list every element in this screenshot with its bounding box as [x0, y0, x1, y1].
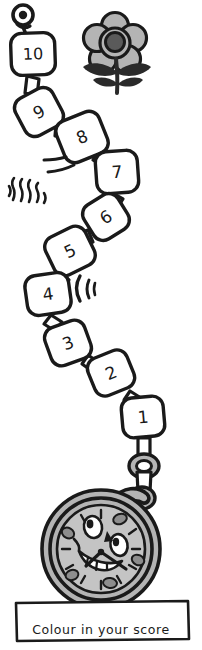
chain-step-7[interactable]: 7 [95, 150, 140, 195]
score-chain-illustration: 10987654321 [0, 0, 202, 650]
swoosh-arc-icon [77, 276, 96, 301]
caption-box [16, 601, 189, 641]
chain-step-1[interactable]: 1 [120, 395, 165, 439]
chain-step-10[interactable]: 10 [10, 32, 55, 76]
chain-step-number: 10 [22, 44, 43, 64]
chain-step-boxes[interactable]: 10987654321 [10, 32, 165, 439]
sparkle-squiggles-icon [9, 178, 46, 203]
pocket-watch-mascot [42, 489, 160, 608]
worksheet-canvas: 10987654321 [0, 0, 202, 650]
flower-icon [83, 13, 151, 94]
chain-step-number: 7 [111, 162, 123, 183]
chain-step-number: 1 [137, 407, 150, 428]
chain-step-4[interactable]: 4 [23, 271, 72, 317]
